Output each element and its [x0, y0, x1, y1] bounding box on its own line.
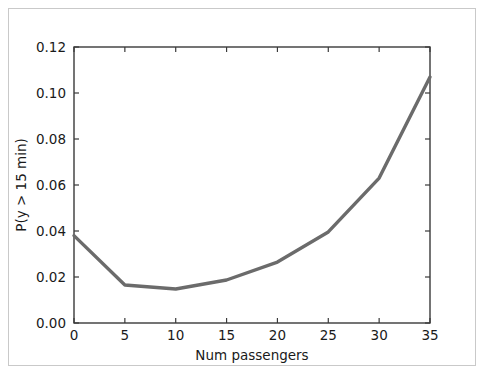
x-axis-tick-labels: 05101520253035 [70, 327, 439, 343]
y-tick-label: 0.00 [36, 315, 66, 331]
figure-root: 05101520253035 0.000.020.040.060.080.100… [0, 0, 489, 374]
y-tick-label: 0.02 [36, 269, 66, 285]
x-tick-label: 10 [167, 327, 184, 343]
y-tick-label: 0.10 [36, 85, 66, 101]
series-line [74, 77, 430, 289]
y-tick-label: 0.06 [36, 177, 66, 193]
y-axis-ticks [74, 47, 430, 323]
x-tick-label: 30 [371, 327, 388, 343]
x-axis-ticks [74, 47, 430, 323]
x-tick-label: 5 [121, 327, 130, 343]
x-tick-label: 35 [421, 327, 438, 343]
y-tick-label: 0.04 [36, 223, 66, 239]
y-axis-title: P(y > 15 min) [13, 138, 29, 232]
line-chart: 05101520253035 0.000.020.040.060.080.100… [0, 0, 489, 374]
y-axis-tick-labels: 0.000.020.040.060.080.100.12 [36, 39, 66, 331]
x-axis-title: Num passengers [195, 347, 308, 363]
axes-spines [74, 47, 430, 323]
data-series-group [74, 77, 430, 289]
x-tick-label: 0 [70, 327, 79, 343]
y-tick-label: 0.12 [36, 39, 66, 55]
x-tick-label: 15 [218, 327, 235, 343]
x-tick-label: 25 [320, 327, 337, 343]
x-tick-label: 20 [269, 327, 286, 343]
y-tick-label: 0.08 [36, 131, 66, 147]
